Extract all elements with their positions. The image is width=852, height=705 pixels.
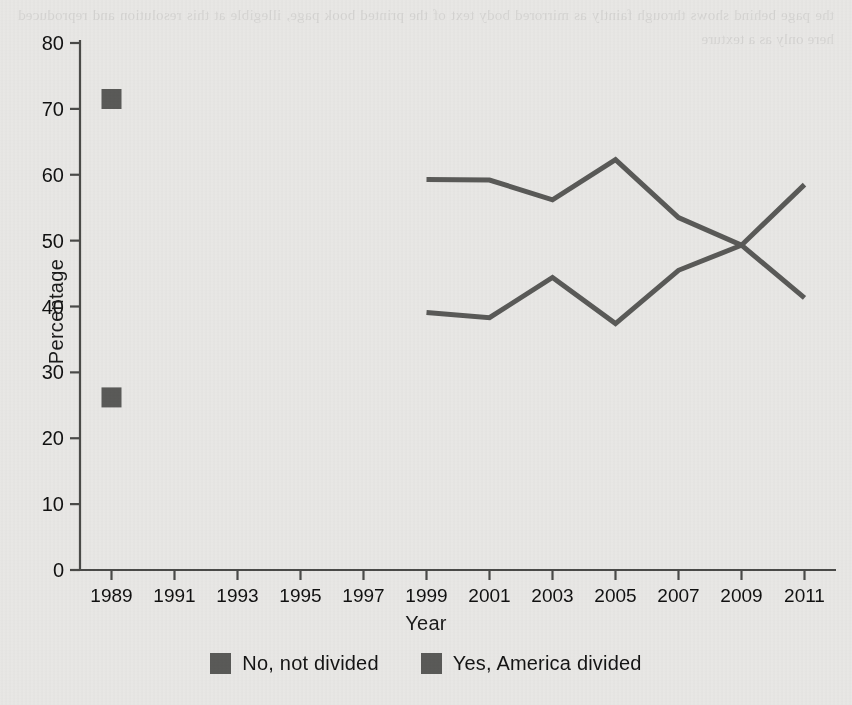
x-tick-label: 2009 <box>720 585 762 606</box>
legend-item-yes-america-divided: Yes, America divided <box>421 652 642 675</box>
axes <box>80 40 836 570</box>
legend-label: Yes, America divided <box>453 652 642 675</box>
y-axis-ticks <box>70 43 80 570</box>
legend-item-no-not-divided: No, not divided <box>210 652 378 675</box>
x-tick-label: 2005 <box>594 585 636 606</box>
data-series-lines <box>427 160 805 324</box>
y-tick-label: 20 <box>42 427 64 449</box>
x-tick-label: 2011 <box>784 585 825 606</box>
y-tick-label: 70 <box>42 98 64 120</box>
y-tick-label: 0 <box>53 559 64 581</box>
x-tick-label: 1993 <box>216 585 258 606</box>
x-axis-title: Year <box>0 612 852 635</box>
y-axis-title: Percentage <box>45 232 68 392</box>
chart-canvas: 01020304050607080 1989199119931995199719… <box>0 0 852 705</box>
y-tick-label: 60 <box>42 164 64 186</box>
x-tick-label: 2007 <box>657 585 699 606</box>
y-tick-label: 80 <box>42 32 64 54</box>
x-tick-label: 1999 <box>405 585 447 606</box>
x-axis-ticks <box>112 570 805 580</box>
legend-label: No, not divided <box>242 652 378 675</box>
series-line-1 <box>427 185 805 324</box>
x-tick-label: 1997 <box>342 585 384 606</box>
series-line-0 <box>427 160 805 298</box>
series-marker-1 <box>102 387 122 407</box>
x-tick-label: 1995 <box>279 585 321 606</box>
data-series-markers <box>102 89 122 407</box>
series-marker-0 <box>102 89 122 109</box>
x-tick-label: 2003 <box>531 585 573 606</box>
chart-legend: No, not divided Yes, America divided <box>0 652 852 675</box>
legend-swatch-icon <box>210 653 231 674</box>
x-axis-tick-labels: 1989199119931995199719992001200320052007… <box>90 585 825 606</box>
y-tick-label: 10 <box>42 493 64 515</box>
x-tick-label: 2001 <box>468 585 510 606</box>
x-tick-label: 1991 <box>153 585 195 606</box>
chart-figure: 01020304050607080 1989199119931995199719… <box>0 0 852 705</box>
legend-swatch-icon <box>421 653 442 674</box>
x-tick-label: 1989 <box>90 585 132 606</box>
